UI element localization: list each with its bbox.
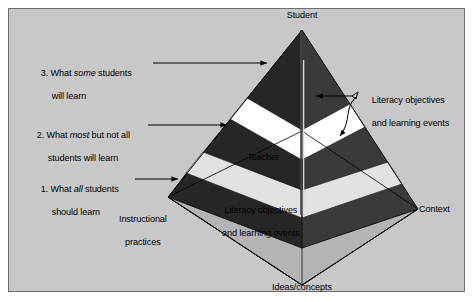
callout-label-3: 3. What some students will learn [31, 57, 132, 113]
interior-label-teacher: Teacher [228, 152, 298, 163]
callout-1-num: 1. [41, 184, 48, 194]
callout-1-emphasis: all [74, 184, 83, 194]
callout-1-post: students [83, 184, 119, 194]
callout-2-post: but not all [89, 130, 130, 140]
instructional-practices-line1: Instructional [119, 214, 167, 224]
callout-2-num: 2. [37, 130, 44, 140]
callout-label-right-literacy: Literacy objectives and learning events [362, 84, 449, 140]
base-literacy-line1: Literacy objectives [224, 205, 297, 215]
vertex-label-context: Context [419, 204, 450, 215]
callout-2-line2: students will learn [37, 153, 118, 163]
callout-3-emphasis: some [74, 68, 96, 78]
base-literacy-line2: and learning events [222, 228, 299, 238]
callout-label-1: 1. What all students should learn [31, 173, 119, 229]
callout-2-pre: What [44, 130, 70, 140]
right-literacy-line1: Literacy objectives [372, 95, 445, 105]
callout-3-line2: will learn [41, 91, 86, 101]
leader-bracket-right [352, 92, 358, 99]
callout-3-pre: What [48, 68, 74, 78]
vertex-label-student: Student [262, 10, 342, 21]
vertex-label-ideas-concepts: Ideas/concepts [252, 282, 352, 293]
right-literacy-line2: and learning events [372, 118, 449, 128]
callout-2-emphasis: most [70, 130, 89, 140]
callout-label-2: 2. What most but not all students will l… [27, 119, 130, 175]
callout-1-pre: What [48, 184, 74, 194]
callout-1-line2: should learn [41, 207, 100, 217]
figure-root: Student Instructional practices Context … [0, 0, 475, 302]
callout-3-num: 3. [41, 68, 48, 78]
instructional-practices-line2: practices [125, 237, 161, 247]
interior-label-base-literacy: Literacy objectives and learning events [188, 194, 324, 250]
callout-3-post: students [96, 68, 132, 78]
